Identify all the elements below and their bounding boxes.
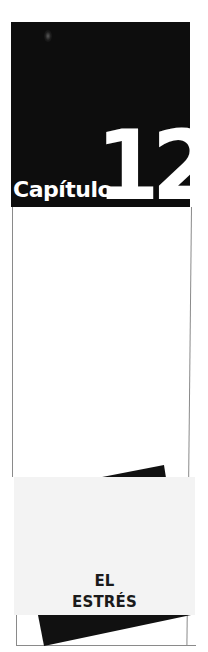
- lower-wedge-shape: [0, 0, 208, 652]
